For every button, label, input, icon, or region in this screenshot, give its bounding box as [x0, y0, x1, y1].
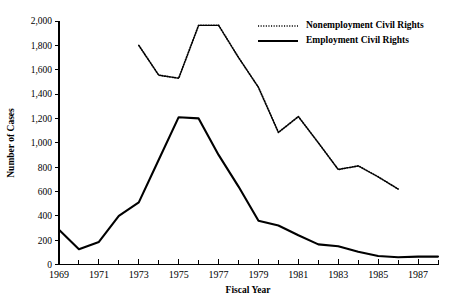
y-axis-group: 02004006008001,0001,2001,4001,6001,8002,…: [6, 16, 59, 270]
y-tick-label: 800: [38, 163, 53, 173]
x-tick-label: 1987: [408, 269, 428, 280]
x-tick-label: 1971: [89, 269, 109, 280]
y-tick-label: 1,600: [31, 65, 53, 75]
series-line-employment: [59, 117, 438, 257]
x-tick-marks: [59, 259, 438, 265]
x-axis-title: Fiscal Year: [226, 285, 272, 295]
y-tick-label: 600: [38, 187, 53, 197]
x-tick-label: 1981: [288, 269, 308, 280]
x-tick-label: 1969: [49, 269, 69, 280]
chart-legend: Nonemployment Civil RightsEmployment Civ…: [258, 20, 424, 45]
x-axis-group: 1969197119731975197719791981198319851987…: [49, 259, 438, 296]
series-plot-area: [59, 25, 438, 257]
series-line-nonemployment: [139, 25, 398, 189]
x-tick-label: 1975: [169, 269, 189, 280]
x-tick-label: 1983: [328, 269, 348, 280]
y-tick-label: 400: [38, 211, 53, 221]
x-tick-labels: 1969197119731975197719791981198319851987: [49, 269, 428, 280]
x-tick-label: 1973: [129, 269, 149, 280]
y-tick-label: 1,000: [31, 138, 53, 148]
legend-label-employment: Employment Civil Rights: [306, 35, 409, 45]
legend-label-nonemployment: Nonemployment Civil Rights: [306, 20, 424, 30]
x-tick-label: 1985: [368, 269, 388, 280]
y-tick-label: 1,400: [31, 89, 53, 99]
y-tick-marks: [55, 21, 59, 265]
line-chart: 02004006008001,0001,2001,4001,6001,8002,…: [0, 0, 453, 307]
x-tick-label: 1979: [248, 269, 268, 280]
chart-container: 02004006008001,0001,2001,4001,6001,8002,…: [0, 0, 453, 307]
y-tick-label: 200: [38, 236, 53, 246]
y-axis-title: Number of Cases: [6, 108, 16, 178]
y-tick-label: 1,200: [31, 114, 53, 124]
y-tick-label: 1,800: [31, 41, 53, 51]
y-tick-label: 2,000: [31, 16, 53, 26]
y-tick-labels: 02004006008001,0001,2001,4001,6001,8002,…: [31, 16, 53, 270]
x-tick-label: 1977: [209, 269, 229, 280]
